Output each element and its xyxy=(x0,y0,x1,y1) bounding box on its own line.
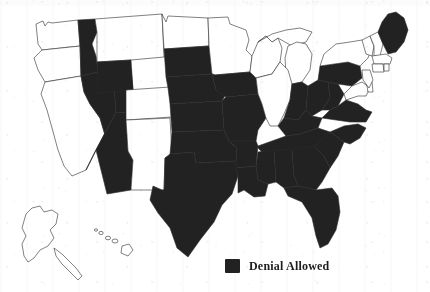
state-connecticut xyxy=(372,64,384,72)
state-missouri xyxy=(222,94,266,141)
state-south-dakota xyxy=(164,46,212,77)
legend-label-denial-allowed: Denial Allowed xyxy=(249,260,329,272)
state-alaska-panhandle xyxy=(54,248,82,280)
state-washington xyxy=(36,20,80,50)
us-choropleth-map-figure: Denial Allowed xyxy=(0,0,430,292)
state-alaska xyxy=(22,206,58,262)
state-mississippi xyxy=(256,150,276,184)
state-kansas xyxy=(170,101,224,132)
state-colorado xyxy=(126,87,172,120)
state-ohio xyxy=(306,80,330,116)
state-rhode-island xyxy=(384,64,389,71)
state-oregon xyxy=(34,46,81,82)
map-legend: Denial Allowed xyxy=(225,259,329,273)
state-maine xyxy=(378,12,408,54)
state-montana xyxy=(95,14,164,62)
state-north-dakota xyxy=(162,14,209,49)
us-map-svg xyxy=(0,0,430,292)
state-florida xyxy=(284,186,340,248)
denial-allowed-swatch-icon xyxy=(225,259,240,273)
state-massachusetts xyxy=(372,54,392,64)
state-hawaii xyxy=(94,229,133,256)
state-wyoming xyxy=(97,60,133,93)
state-shapes-group xyxy=(22,12,408,280)
state-idaho xyxy=(78,19,98,76)
state-minnesota xyxy=(208,17,252,75)
